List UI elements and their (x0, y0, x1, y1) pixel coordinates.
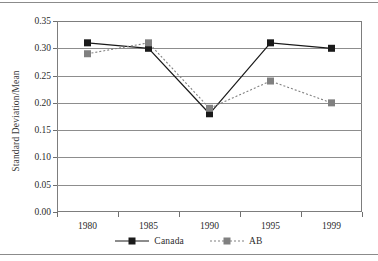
y-axis-title: Standard Deviation/Mean (11, 23, 21, 219)
legend-entry-ab[interactable]: AB (210, 236, 263, 246)
legend-entry-canada[interactable]: Canada (115, 236, 184, 246)
x-tick-label: 1999 (322, 221, 341, 231)
series-line (88, 43, 332, 114)
data-point-marker (328, 45, 335, 52)
legend-swatch-square-icon (210, 236, 244, 246)
y-tick-label: 0.20 (34, 98, 51, 108)
y-tick-label: 0.30 (34, 43, 51, 53)
x-tick-mark (362, 212, 363, 217)
y-tick-label: 0.00 (34, 207, 51, 217)
plot-area: 0.000.050.100.150.200.250.300.35 1980198… (57, 21, 362, 212)
data-point-marker (84, 50, 91, 57)
legend-swatch-square-icon (115, 236, 149, 246)
x-tick-mark (57, 212, 58, 217)
data-point-marker (84, 39, 91, 46)
y-tick-label: 0.05 (34, 180, 51, 190)
chart-figure: Standard Deviation/Mean 0.000.050.100.15… (0, 0, 378, 261)
bottom-divider-rule (0, 254, 378, 255)
series-ab (84, 39, 335, 111)
data-point-marker (328, 99, 335, 106)
x-tick-label: 1995 (261, 221, 280, 231)
x-tick-label: 1980 (78, 221, 97, 231)
y-tick-label: 0.10 (34, 152, 51, 162)
top-divider-rule (0, 2, 378, 3)
x-tick-label: 1985 (139, 221, 158, 231)
x-tick-mark (179, 212, 180, 217)
x-tick-mark (301, 212, 302, 217)
x-tick-mark (118, 212, 119, 217)
x-tick-mark (240, 212, 241, 217)
data-point-marker (267, 39, 274, 46)
y-tick-label: 0.35 (34, 16, 51, 26)
y-tick-label: 0.25 (34, 71, 51, 81)
data-point-marker (267, 78, 274, 85)
chart-legend: CanadaAB (0, 236, 378, 246)
x-tick-label: 1990 (200, 221, 219, 231)
series-layer (57, 21, 362, 212)
data-point-marker (145, 39, 152, 46)
legend-label: Canada (154, 236, 184, 246)
legend-label: AB (249, 236, 263, 246)
series-line (88, 43, 332, 108)
y-tick-label: 0.15 (34, 125, 51, 135)
data-point-marker (206, 105, 213, 112)
